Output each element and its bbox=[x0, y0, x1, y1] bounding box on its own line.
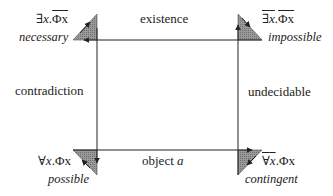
modality-contingent: contingent bbox=[245, 173, 298, 186]
modality-impossible: impossible bbox=[268, 31, 321, 44]
formula-contingent: ∀x.Φx bbox=[262, 154, 295, 167]
negated-predicate: Φx bbox=[52, 11, 68, 26]
formula-possible: ∀x.Φx bbox=[38, 154, 71, 167]
negated-predicate: Φx bbox=[278, 11, 294, 26]
edge-label-undecidable: undecidable bbox=[248, 85, 311, 98]
formula-impossible: ∃x.Φx bbox=[262, 12, 294, 25]
edge-label-object-a: object a bbox=[142, 154, 184, 167]
logical-square-diagram: ∃x.Φx necessary ∃x.Φx impossible ∀x.Φx p… bbox=[0, 0, 333, 196]
edge-label-existence: existence bbox=[140, 12, 188, 25]
modality-possible: possible bbox=[48, 173, 89, 186]
negated-quantifier: ∃x bbox=[262, 11, 275, 26]
edge-label-contradiction: contradiction bbox=[15, 84, 84, 97]
modality-necessary: necessary bbox=[19, 31, 68, 44]
formula-necessary: ∃x.Φx bbox=[36, 12, 68, 25]
negated-quantifier: ∀x bbox=[262, 153, 276, 168]
